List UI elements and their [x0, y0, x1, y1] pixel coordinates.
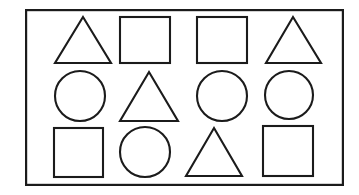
shapes-figure [0, 0, 359, 195]
outer-rectangle-border [26, 10, 343, 185]
shapes-canvas [0, 0, 359, 195]
